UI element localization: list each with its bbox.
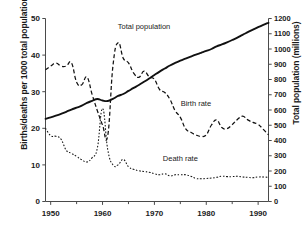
svg-text:1200: 1200 — [274, 14, 291, 23]
svg-text:50: 50 — [31, 14, 40, 23]
svg-text:30: 30 — [31, 88, 40, 97]
annotation-birth-rate: Birth rate — [181, 99, 211, 108]
series-death-rate — [46, 109, 269, 179]
svg-text:10: 10 — [31, 161, 40, 170]
svg-text:1980: 1980 — [197, 209, 215, 218]
svg-text:700: 700 — [274, 90, 287, 99]
svg-text:1000: 1000 — [274, 45, 291, 54]
annotation-total-population: Total population — [118, 22, 171, 31]
axis-tick-labels: 0102030405001002003004005006007008009001… — [31, 14, 291, 218]
svg-text:200: 200 — [274, 167, 287, 176]
axis-ticks — [42, 19, 271, 205]
chart-plot-area: 0102030405001002003004005006007008009001… — [0, 0, 306, 233]
svg-text:300: 300 — [274, 151, 287, 160]
svg-text:500: 500 — [274, 121, 287, 130]
series-birth-rate — [46, 43, 269, 141]
svg-text:1950: 1950 — [42, 209, 60, 218]
svg-text:1970: 1970 — [146, 209, 164, 218]
svg-text:800: 800 — [274, 75, 287, 84]
axis-frame — [46, 19, 269, 202]
svg-text:1100: 1100 — [274, 29, 290, 38]
svg-text:1990: 1990 — [249, 209, 267, 218]
svg-text:40: 40 — [31, 51, 40, 60]
series-total-population — [46, 23, 269, 119]
svg-text:900: 900 — [274, 60, 287, 69]
svg-text:400: 400 — [274, 136, 287, 145]
svg-text:20: 20 — [31, 124, 40, 133]
svg-text:0: 0 — [36, 197, 41, 206]
svg-text:0: 0 — [274, 197, 278, 206]
svg-text:1960: 1960 — [94, 209, 112, 218]
chart-figure: Births/deaths per 1000 total population … — [0, 0, 306, 233]
svg-text:600: 600 — [274, 106, 287, 115]
svg-text:100: 100 — [274, 182, 287, 191]
annotation-death-rate: Death rate — [163, 154, 198, 163]
data-series — [46, 23, 269, 179]
